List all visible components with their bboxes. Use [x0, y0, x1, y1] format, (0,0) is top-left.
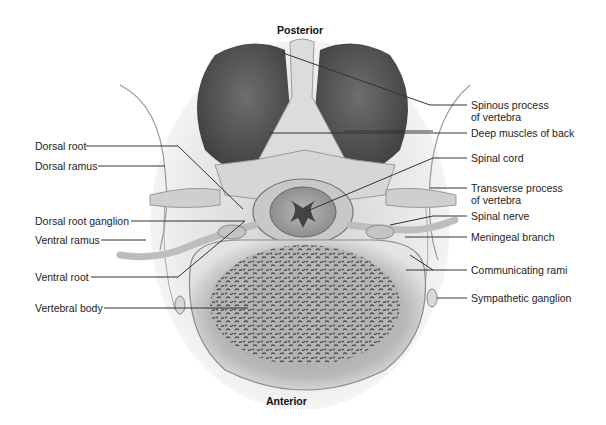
- sympathetic-ganglion: [427, 289, 437, 307]
- label-spinous-process: Spinous process of vertebra: [471, 99, 549, 123]
- orientation-anterior: Anterior: [266, 395, 307, 407]
- label-ventral-ramus: Ventral ramus: [35, 234, 100, 246]
- label-spinal-nerve: Spinal nerve: [471, 210, 529, 222]
- label-sympathetic-ganglion: Sympathetic ganglion: [471, 292, 571, 304]
- spinal-cross-section-diagram: Posterior Anterior Dorsal root Dorsal ra…: [0, 0, 606, 425]
- label-dorsal-root-ganglion: Dorsal root ganglion: [35, 215, 129, 227]
- label-meningeal-branch: Meningeal branch: [471, 231, 554, 243]
- label-communicating-rami: Communicating rami: [471, 264, 567, 276]
- label-dorsal-ramus: Dorsal ramus: [35, 160, 97, 172]
- label-ventral-root: Ventral root: [35, 271, 89, 283]
- label-spinal-cord: Spinal cord: [471, 152, 524, 164]
- orientation-posterior: Posterior: [277, 24, 323, 36]
- label-vertebral-body: Vertebral body: [35, 302, 103, 314]
- label-dorsal-root: Dorsal root: [35, 140, 86, 152]
- label-deep-muscles: Deep muscles of back: [471, 127, 574, 139]
- label-transverse-process: Transverse process of vertebra: [471, 182, 563, 206]
